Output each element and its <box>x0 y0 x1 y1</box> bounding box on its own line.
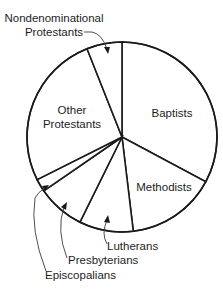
label-episcopalians: Episcopalians <box>45 269 116 281</box>
label-lutherans: Lutherans <box>107 240 158 252</box>
label-other-protestants-line1: Other <box>58 104 87 116</box>
label-other-protestants-line2: Protestants <box>43 118 101 130</box>
label-nondenominational-line1: Nondenominational <box>4 12 103 24</box>
label-nondenominational-line2: Protestants <box>25 26 83 38</box>
label-methodists: Methodists <box>136 181 192 193</box>
pie-slices <box>27 42 217 232</box>
leader-episcopalians <box>34 185 49 271</box>
label-presbyterians: Presbyterians <box>68 254 139 266</box>
label-baptists: Baptists <box>152 107 193 119</box>
pie-chart: Baptists Methodists Other Protestants No… <box>0 0 223 293</box>
